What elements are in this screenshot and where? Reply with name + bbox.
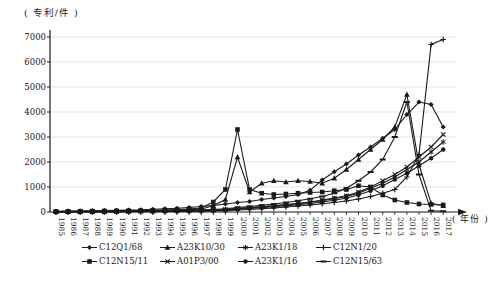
- legend-plus-marker-icon: [316, 243, 331, 252]
- legend-triangle-marker-icon: [160, 243, 175, 252]
- legend-dash-marker-icon: [316, 257, 331, 266]
- y-tick-label: 0: [41, 207, 46, 217]
- x-tick-label: 1986: [69, 217, 78, 236]
- legend-item-c12n1-20: C12N1/20: [316, 240, 394, 254]
- x-tick-label: 2003: [275, 217, 284, 236]
- x-tick-label: 2013: [396, 217, 405, 236]
- y-axis-tick-labels: 01000200030004000500060007000: [24, 32, 50, 217]
- x-tick-label: 2002: [263, 217, 272, 236]
- legend-label: A23K1/16: [255, 256, 297, 266]
- legend-label: A23K1/18: [255, 242, 297, 252]
- x-tick-label: 1992: [142, 217, 151, 236]
- chart-legend: C12Q1/68C12N15/11A23K10/30A01P3/00A23K1/…: [82, 240, 394, 268]
- legend-item-c12n15-11: C12N15/11: [82, 254, 160, 268]
- x-tick-label: 2015: [420, 217, 429, 236]
- x-tick-label: 2012: [384, 217, 393, 236]
- legend-item-a23k1-18: A23K1/18: [238, 240, 316, 254]
- y-tick-label: 5000: [24, 82, 46, 92]
- y-tick-label: 7000: [24, 32, 46, 42]
- x-tick-label: 2014: [408, 217, 417, 236]
- x-tick-label: 2000: [239, 217, 248, 236]
- x-tick-label: 1994: [166, 217, 175, 236]
- x-tick-label: 1991: [130, 217, 139, 236]
- y-tick-label: 6000: [24, 57, 46, 67]
- x-tick-label: 1996: [190, 217, 199, 236]
- legend-label: A23K10/30: [177, 242, 225, 252]
- y-tick-label: 2000: [24, 157, 46, 167]
- y-tick-label: 4000: [24, 107, 46, 117]
- legend-label: C12N1/20: [333, 242, 377, 252]
- series-a23k10-30: [53, 92, 446, 214]
- legend-circle-marker-icon: [238, 257, 253, 266]
- x-tick-label: 2007: [323, 217, 332, 236]
- x-tick-label: 2005: [299, 217, 308, 236]
- x-axis-tick-labels: 1985198619871988198919901991199219931994…: [56, 212, 453, 236]
- legend-item-a01p3-00: A01P3/00: [160, 254, 238, 268]
- legend-item-a23k1-16: A23K1/16: [238, 254, 316, 268]
- x-tick-label: 1998: [214, 217, 223, 236]
- x-tick-label: 1990: [118, 217, 127, 236]
- x-tick-label: 1985: [57, 217, 66, 236]
- x-tick-label: 2011: [372, 217, 381, 236]
- legend-item-c12q1-68: C12Q1/68: [82, 240, 160, 254]
- x-tick-label: 1987: [81, 217, 90, 236]
- legend-star-marker-icon: [238, 243, 253, 252]
- legend-label: A01P3/00: [177, 256, 219, 266]
- y-tick-label: 3000: [24, 132, 46, 142]
- x-tick-label: 2001: [251, 217, 260, 236]
- x-tick-label: 1993: [154, 217, 163, 236]
- x-tick-label: 1999: [226, 217, 235, 236]
- x-axis-unit-label: ( 年份 ): [452, 212, 489, 225]
- legend-label: C12N15/11: [99, 256, 148, 266]
- legend-item-a23k10-30: A23K10/30: [160, 240, 238, 254]
- legend-label: C12N15/63: [333, 256, 382, 266]
- x-tick-label: 1997: [202, 217, 211, 236]
- x-tick-label: 2016: [432, 217, 441, 236]
- series-c12n15-63: [53, 101, 446, 213]
- y-tick-label: 1000: [24, 182, 46, 192]
- x-tick-label: 2008: [335, 217, 344, 236]
- x-tick-label: 2006: [311, 217, 320, 236]
- legend-x-marker-icon: [160, 257, 175, 266]
- x-tick-label: 1988: [93, 217, 102, 236]
- x-tick-label: 1989: [105, 217, 114, 236]
- gridlines: [50, 37, 456, 187]
- x-tick-label: 2009: [347, 217, 356, 236]
- legend-label: C12Q1/68: [99, 242, 142, 252]
- x-tick-label: 2010: [360, 217, 369, 236]
- x-tick-label: 2004: [287, 217, 296, 236]
- axes: [50, 30, 467, 215]
- legend-diamond-marker-icon: [82, 243, 97, 252]
- x-tick-label: 1995: [178, 217, 187, 236]
- patent-ipc-trend-chart: ( 专利/件 ) 0100020003000400050006000700019…: [0, 0, 493, 283]
- line-chart-plot: 0100020003000400050006000700019851986198…: [0, 0, 493, 240]
- legend-square-marker-icon: [82, 257, 97, 266]
- legend-item-c12n15-63: C12N15/63: [316, 254, 394, 268]
